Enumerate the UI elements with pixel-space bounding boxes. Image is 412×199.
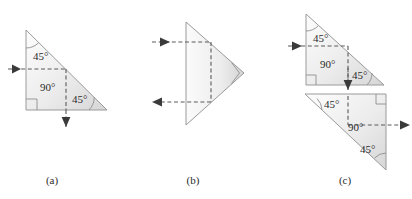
caption-b: (b) xyxy=(187,174,200,187)
angle-label-c-top-2: 90° xyxy=(320,58,335,70)
angle-label-c-bottom-3: 45° xyxy=(360,143,375,155)
arrowhead-a-outgoing xyxy=(62,117,71,127)
angle-label-a-3: 45° xyxy=(72,93,87,105)
arrowhead-b-incoming xyxy=(160,37,170,46)
angle-label-c-top-3: 45° xyxy=(352,69,367,81)
angle-label-c-bottom-2: 90° xyxy=(348,121,363,133)
panel-c: 45° 90° 45° 45° 90° 45° (c) xyxy=(288,14,410,187)
prism-b-triangle xyxy=(186,22,244,125)
arrowhead-b-outgoing xyxy=(152,97,162,106)
angle-label-a-1: 45° xyxy=(33,50,48,62)
caption-c: (c) xyxy=(339,174,352,187)
panel-b: (b) xyxy=(152,22,244,187)
caption-a: (a) xyxy=(46,174,59,187)
arrowhead-c-incoming xyxy=(292,41,302,50)
angle-label-c-top-1: 45° xyxy=(313,32,328,44)
panel-a: 45° 90° 45° (a) xyxy=(8,30,107,187)
prism-c-bottom-triangle xyxy=(305,94,386,170)
arrowhead-c-outgoing xyxy=(400,120,410,129)
figure-canvas: 45° 90° 45° (a) (b) xyxy=(0,0,412,199)
angle-label-a-2: 90° xyxy=(40,81,55,93)
angle-label-c-bottom-1: 45° xyxy=(324,98,339,110)
prism-reflection-figure: 45° 90° 45° (a) (b) xyxy=(0,0,412,199)
arrowhead-a-incoming xyxy=(12,65,21,74)
